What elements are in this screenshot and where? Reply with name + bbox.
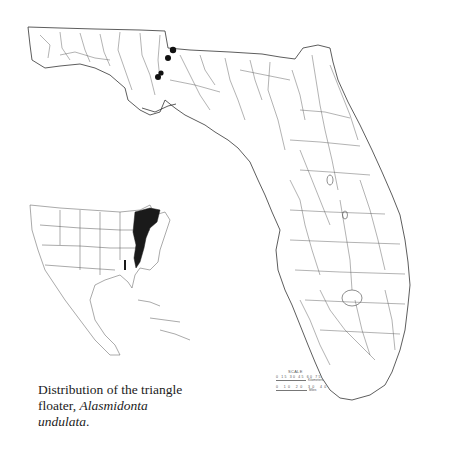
- scale-mi-bar: [276, 390, 307, 391]
- figure-caption: Distribution of the triangle floater, Al…: [38, 382, 228, 430]
- caption-genus: Alasmidonta: [79, 398, 147, 413]
- occurrence-point-2: [165, 55, 171, 61]
- occurrence-point-4: [158, 70, 163, 75]
- caption-common-name-end: floater,: [38, 398, 79, 413]
- scale-km-label: Kilometers: [308, 378, 323, 382]
- inset-range-apalachicola: [124, 260, 126, 270]
- inset-range-shading: [133, 208, 160, 268]
- river-network: [40, 32, 405, 365]
- caption-line-1: Distribution of the triangle: [38, 382, 228, 398]
- caption-line-3: undulata.: [38, 414, 228, 430]
- scale-mi-label: Miles: [309, 388, 316, 392]
- florida-outline: [28, 27, 410, 400]
- caption-species: undulata: [38, 414, 86, 429]
- lakes: [327, 175, 362, 306]
- inset-map: [30, 205, 190, 355]
- scale-title: SCALE: [288, 369, 303, 374]
- distribution-map-figure: Distribution of the triangle floater, Al…: [0, 0, 464, 462]
- occurrence-point-1: [170, 47, 176, 53]
- caption-line-2: floater, Alasmidonta: [38, 398, 228, 414]
- scale-km-bar: [276, 380, 306, 381]
- scale-mi-ticks: 0 10 20 30 40: [276, 385, 329, 389]
